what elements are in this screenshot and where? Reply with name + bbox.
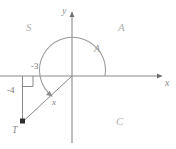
point-marker-t xyxy=(20,119,25,124)
angle-label: A xyxy=(94,44,100,54)
horizontal-leg-value: -3 xyxy=(31,62,39,71)
quadrant-label-s: S xyxy=(26,22,32,33)
terminal-ray xyxy=(24,76,73,121)
point-label-t: T xyxy=(12,125,18,135)
trig-quadrant-diagram: S A C y x A -3 -4 x T xyxy=(0,0,176,149)
y-axis-label: y xyxy=(62,6,66,16)
vertical-leg-value: -4 xyxy=(7,86,15,95)
quadrant-label-a: A xyxy=(118,22,125,33)
right-angle-marker xyxy=(23,76,34,87)
x-axis-label: x xyxy=(165,78,169,88)
hypotenuse-label: x xyxy=(52,98,56,107)
quadrant-label-c: C xyxy=(116,116,123,127)
